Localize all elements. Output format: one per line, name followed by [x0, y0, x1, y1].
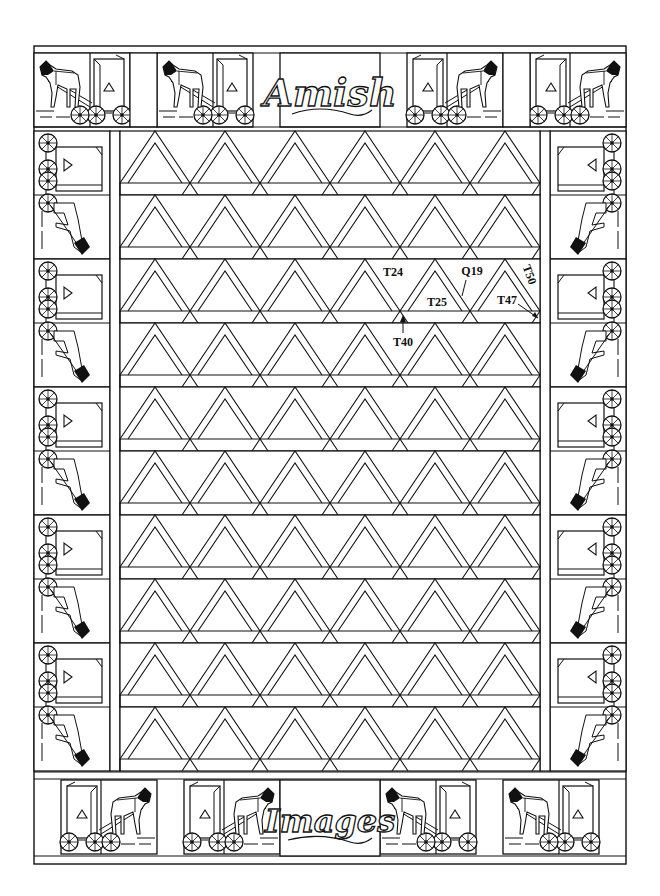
side-block-right-3 [550, 387, 626, 515]
side-block-right-1 [550, 131, 626, 259]
left-border [34, 131, 110, 771]
side-block-right-4 [550, 515, 626, 643]
triangle-row-10 [120, 707, 540, 771]
buggy-block-top-2 [157, 53, 254, 127]
side-block-left-3 [34, 387, 110, 515]
triangle-row-6 [120, 451, 540, 515]
label-t24: T24 [383, 265, 403, 279]
buggy-block-top-3 [406, 53, 503, 127]
triangle-row-7 [120, 515, 540, 579]
label-t25: T25 [427, 295, 447, 309]
triangle-row-5 [120, 387, 540, 451]
triangle-row-1 [120, 131, 540, 195]
triangle-row-9 [120, 643, 540, 707]
top-border: Amish [34, 53, 626, 127]
right-border [550, 131, 626, 771]
title-images: Images [264, 802, 395, 840]
buggy-block-bottom-2 [60, 780, 157, 854]
side-block-left-2 [34, 259, 110, 387]
label-t40: T40 [393, 335, 413, 349]
side-block-right-5 [550, 643, 626, 771]
triangle-grid [120, 131, 540, 771]
title-amish: Amish [260, 70, 396, 115]
buggy-block-top-4 [529, 53, 626, 127]
label-q19: Q19 [461, 264, 482, 278]
buggy-block-top-1 [34, 53, 131, 127]
triangle-row-8 [120, 579, 540, 643]
label-t47: T47 [497, 293, 517, 307]
side-block-right-2 [550, 259, 626, 387]
side-block-left-5 [34, 643, 110, 771]
bottom-border: Images [34, 772, 626, 856]
buggy-block-bottom-4 [503, 780, 600, 854]
triangle-row-4 [120, 323, 540, 387]
quilt-diagram: Amish T24 Q19 T50 T25 T4 [0, 0, 660, 896]
triangle-row-2 [120, 195, 540, 259]
side-block-left-1 [34, 131, 110, 259]
side-block-left-4 [34, 515, 110, 643]
